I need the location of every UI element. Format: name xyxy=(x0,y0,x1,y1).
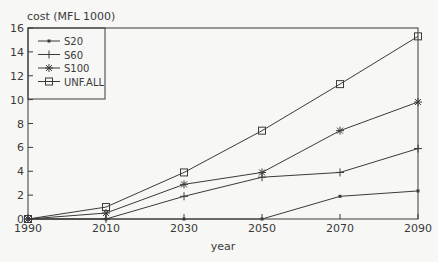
legend-item: UNF.ALL xyxy=(38,77,105,88)
y-tick-label: 2 xyxy=(17,189,24,202)
series-s60 xyxy=(24,145,422,223)
series-line xyxy=(28,102,418,219)
plot-series xyxy=(24,33,422,223)
legend-item: S100 xyxy=(38,63,89,74)
y-tick-label: 8 xyxy=(17,118,24,131)
series-line xyxy=(28,149,418,219)
legend-label: S100 xyxy=(64,63,89,74)
dot-marker-icon xyxy=(183,218,186,221)
series-unfall xyxy=(25,33,422,223)
dot-marker-icon xyxy=(48,40,51,43)
series-s100 xyxy=(24,98,422,223)
y-axis-label: cost (MFL 1000) xyxy=(27,10,115,23)
x-axis-label: year xyxy=(211,240,236,253)
legend-item: S20 xyxy=(38,36,83,47)
y-tick-label: 12 xyxy=(10,70,24,83)
x-tick-label: 2010 xyxy=(92,222,120,235)
legend: S20S60S100UNF.ALL xyxy=(28,28,105,99)
legend-label: UNF.ALL xyxy=(64,77,105,88)
x-tick-label: 1990 xyxy=(14,222,42,235)
x-tick-label: 2090 xyxy=(404,222,432,235)
line-chart: cost (MFL 1000) 024681012141619902010203… xyxy=(0,0,438,262)
legend-label: S20 xyxy=(64,36,83,47)
y-tick-label: 10 xyxy=(10,94,24,107)
x-tick-label: 2030 xyxy=(170,222,198,235)
series-s20 xyxy=(27,189,420,220)
x-tick-label: 2050 xyxy=(248,222,276,235)
dot-marker-icon xyxy=(261,218,264,221)
x-tick-label: 2070 xyxy=(326,222,354,235)
legend-label: S60 xyxy=(64,50,83,61)
y-tick-label: 6 xyxy=(17,141,24,154)
y-tick-label: 4 xyxy=(17,165,24,178)
dot-marker-icon xyxy=(339,195,342,198)
y-tick-label: 16 xyxy=(10,22,24,35)
y-tick-label: 14 xyxy=(10,46,24,59)
legend-item: S60 xyxy=(38,50,83,61)
dot-marker-icon xyxy=(417,189,420,192)
